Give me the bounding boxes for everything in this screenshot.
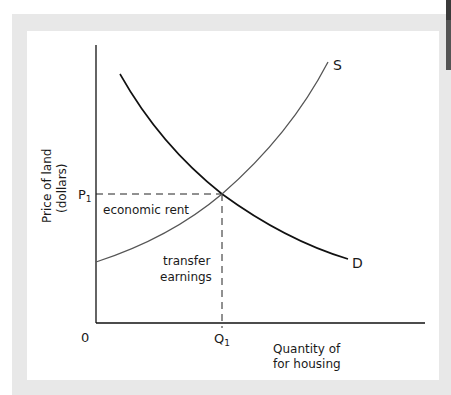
supply-label: S (333, 57, 342, 73)
y-axis-label: Price of land (dollars) (40, 149, 69, 223)
transfer-earnings-label-line2: earnings (160, 270, 212, 284)
y-axis-label-line1: Price of land (40, 149, 54, 223)
x-axis-label-line1: Quantity of (273, 342, 341, 356)
economic-rent-label: economic rent (103, 203, 189, 217)
price-p1-label: P1 (78, 187, 92, 204)
transfer-earnings-label-line1: transfer (163, 254, 210, 268)
y-axis-label-line2: (dollars) (55, 163, 69, 213)
quantity-label: Q (214, 331, 224, 346)
x-axis-label-line2: for housing (273, 357, 341, 371)
price-subscript: 1 (86, 194, 92, 204)
demand-label: D (352, 255, 363, 271)
price-label: P (78, 187, 86, 202)
quantity-q1-label: Q1 (214, 331, 230, 348)
quantity-subscript: 1 (224, 338, 230, 348)
supply-demand-diagram: S D P1 Q1 0 economic rent transfer earni… (0, 0, 451, 395)
demand-curve (120, 74, 348, 259)
origin-label: 0 (81, 330, 89, 345)
